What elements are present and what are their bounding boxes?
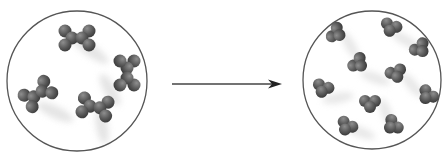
diagram-canvas [0,0,444,161]
molecule [332,114,360,141]
reaction-arrow [172,80,282,89]
molecule [114,55,141,92]
molecule [59,25,96,52]
motion-blur-streaks [321,28,426,143]
right-container [303,11,442,149]
molecule [359,95,381,113]
left-container [7,11,147,151]
